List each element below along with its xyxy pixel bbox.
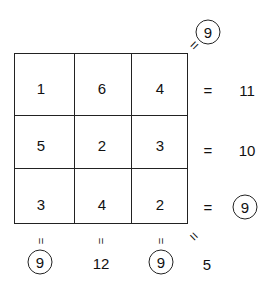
grid-cell: 4 xyxy=(156,80,164,97)
equals-sign: = xyxy=(204,142,213,159)
grid-cell: 4 xyxy=(98,196,106,213)
grid-cell: 3 xyxy=(156,137,164,154)
grid-line xyxy=(74,54,75,223)
grid-line xyxy=(131,54,132,223)
equals-sign: = xyxy=(204,82,213,99)
grid-cell: 3 xyxy=(37,196,45,213)
col-sum-circled: 9 xyxy=(28,250,53,275)
equals-sign: = xyxy=(204,199,213,216)
grid-cell: 2 xyxy=(98,137,106,154)
equals-sign: = xyxy=(95,238,107,244)
grid-cell: 5 xyxy=(37,137,45,154)
equals-sign: = xyxy=(155,238,167,244)
row-sum: 10 xyxy=(239,142,256,159)
equals-sign: = xyxy=(35,238,47,244)
diagonal-sum-circled: 9 xyxy=(196,20,221,45)
diagonal-sum: 5 xyxy=(203,256,211,273)
grid-cell: 1 xyxy=(37,80,45,97)
col-sum: 12 xyxy=(93,255,110,272)
grid-line xyxy=(15,115,187,116)
grid-line xyxy=(15,168,187,169)
row-sum-circled: 9 xyxy=(233,195,258,220)
equals-sign: = xyxy=(186,227,203,244)
grid-cell: 6 xyxy=(98,80,106,97)
col-sum-circled: 9 xyxy=(149,250,174,275)
row-sum: 11 xyxy=(239,82,255,99)
grid-cell: 2 xyxy=(156,196,164,213)
